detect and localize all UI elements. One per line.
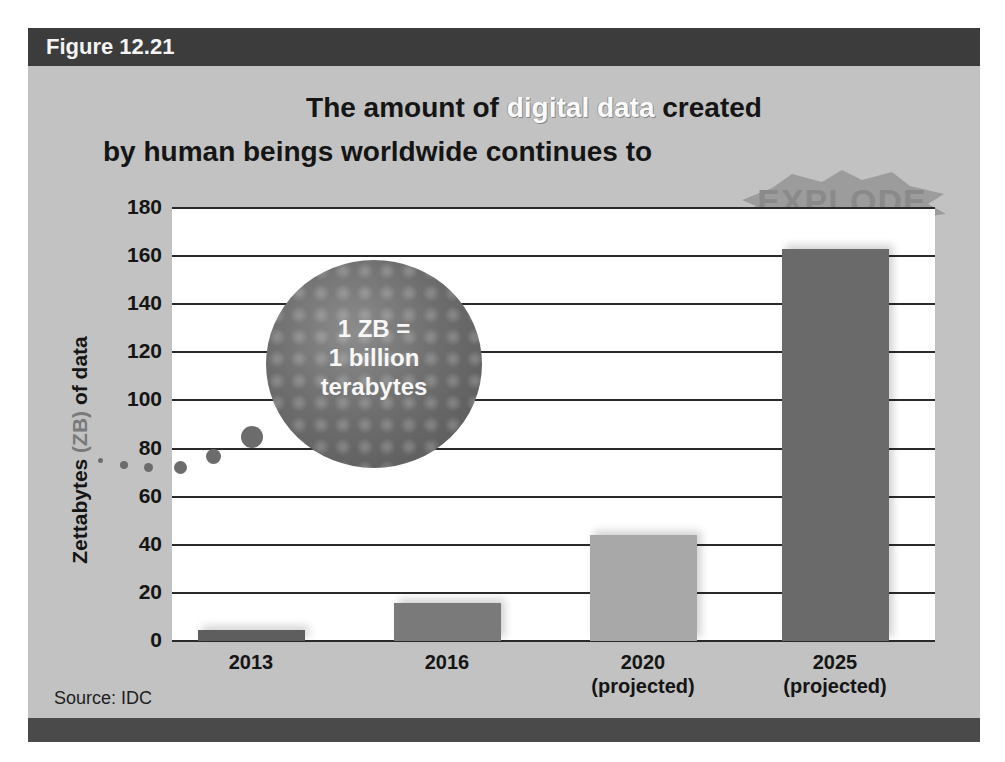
y-tick-label: 0: [110, 628, 162, 652]
chart-title-line1: The amount of digital data created: [28, 92, 980, 124]
x-tick-label: 2025(projected): [735, 650, 935, 698]
bubble-dot-icon: [98, 458, 103, 463]
y-tick-label: 60: [110, 484, 162, 508]
y-tick-label: 80: [110, 436, 162, 460]
bubble-dot-icon: [206, 449, 221, 464]
y-label-text: of data: [68, 336, 91, 411]
bubble-dot-icon: [241, 426, 263, 448]
bar-2020: [590, 535, 697, 641]
chart-title-line2: by human beings worldwide continues to: [103, 136, 652, 168]
callout-line: 1 billion: [266, 343, 482, 372]
y-axis-label: Zettabytes (ZB) of data: [68, 300, 92, 600]
x-tick-label: 2013: [151, 650, 351, 674]
figure: Figure 12.21 The amount of digital data …: [28, 28, 980, 744]
bubble-dot-icon: [144, 463, 153, 472]
y-tick-label: 40: [110, 532, 162, 556]
bubble-dot-icon: [120, 461, 128, 469]
callout-text: 1 ZB = 1 billion terabytes: [266, 314, 482, 401]
y-label-text: Zettabytes: [68, 453, 91, 564]
y-tick-label: 160: [110, 243, 162, 267]
y-tick-label: 20: [110, 580, 162, 604]
zettabyte-sphere-callout: 1 ZB = 1 billion terabytes: [266, 260, 482, 468]
source-note: Source: IDC: [54, 688, 152, 709]
title-text: The amount of: [306, 92, 507, 123]
title-text: created: [655, 92, 762, 123]
y-tick-label: 100: [110, 387, 162, 411]
callout-line: 1 ZB =: [266, 314, 482, 343]
y-tick-label: 120: [110, 339, 162, 363]
callout-line: terabytes: [266, 372, 482, 401]
figure-footer-bar: [28, 718, 980, 742]
bar-2016: [394, 603, 501, 641]
x-tick-label: 2020(projected): [543, 650, 743, 698]
bar-2013: [198, 630, 305, 641]
y-tick-label: 180: [110, 195, 162, 219]
figure-label: Figure 12.21: [46, 34, 174, 60]
bar-2025: [782, 249, 889, 641]
x-tick-label: 2016: [347, 650, 547, 674]
figure-header-bar: Figure 12.21: [28, 28, 980, 66]
title-highlight: digital data: [507, 92, 655, 123]
y-label-zb: (ZB): [68, 411, 91, 453]
y-tick-label: 140: [110, 291, 162, 315]
gridline: [172, 207, 935, 209]
bubble-dot-icon: [174, 461, 187, 474]
